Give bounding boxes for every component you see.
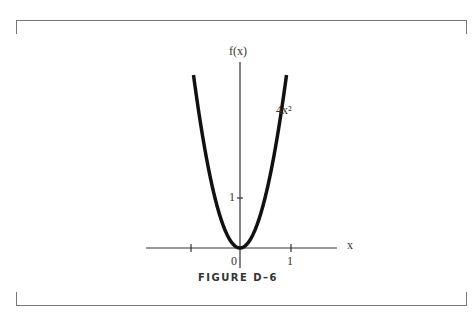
figure-caption: FIGURE D–6 bbox=[0, 272, 476, 283]
x-axis-label: x bbox=[347, 238, 353, 253]
y-tick-label-1: 1 bbox=[229, 190, 235, 205]
curve-annotation: 4x² bbox=[276, 103, 292, 118]
x-tick-label-1: 1 bbox=[287, 254, 293, 269]
origin-label: 0 bbox=[231, 254, 237, 269]
y-axis-label: f(x) bbox=[229, 44, 247, 59]
